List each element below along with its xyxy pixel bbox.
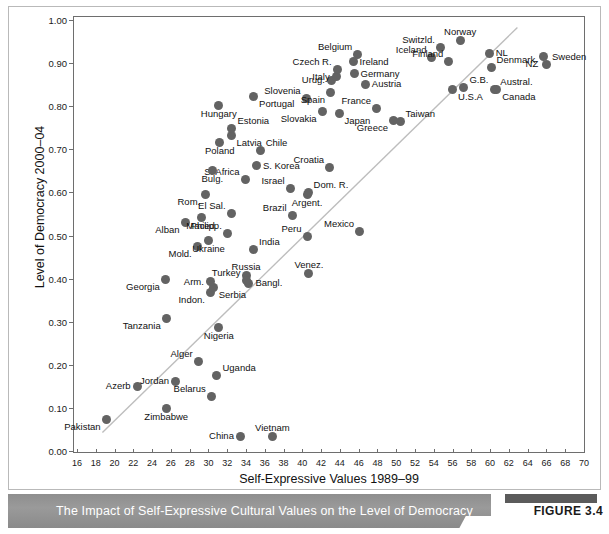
x-tick-mark — [471, 449, 472, 453]
x-tick-label: 70 — [579, 458, 589, 468]
x-tick-mark — [396, 449, 397, 453]
data-point-label: Bangl. — [255, 278, 282, 288]
data-point-label: Norway — [444, 28, 476, 38]
x-tick-label: 22 — [128, 458, 138, 468]
plot-area: PakistanAzerbZimbabweTanzaniaGeorgiaJord… — [73, 16, 585, 453]
x-tick-mark — [227, 449, 228, 453]
figure-number-label: FIGURE 3.4 — [491, 504, 603, 518]
x-tick-mark — [453, 449, 454, 453]
data-point[interactable] — [396, 117, 405, 126]
data-point-label: El Sal. — [198, 201, 225, 211]
data-point-label: Poland — [205, 146, 235, 156]
data-point[interactable] — [355, 227, 364, 236]
data-point[interactable] — [194, 357, 203, 366]
data-point-label: G.B. — [469, 76, 488, 86]
x-tick-label: 16 — [72, 458, 82, 468]
data-point-label: Slovakia — [281, 114, 317, 124]
data-point-label: Uganda — [222, 363, 255, 373]
data-point-label: Sweden — [552, 52, 586, 62]
data-point[interactable] — [303, 232, 312, 241]
data-point-label: NZ — [526, 59, 539, 69]
data-point[interactable] — [252, 161, 261, 170]
data-point[interactable] — [326, 88, 335, 97]
x-tick-mark — [565, 449, 566, 453]
data-point[interactable] — [448, 85, 457, 94]
data-point-label: Jordan — [140, 377, 169, 387]
x-tick-mark — [208, 449, 209, 453]
data-point[interactable] — [207, 392, 216, 401]
figure-container: PakistanAzerbZimbabweTanzaniaGeorgiaJord… — [0, 0, 609, 534]
data-point-label: Nigeria — [204, 331, 234, 341]
data-point[interactable] — [350, 69, 359, 78]
data-point-label: Turkey — [212, 268, 241, 278]
data-point[interactable] — [249, 245, 258, 254]
data-point[interactable] — [487, 63, 496, 72]
x-tick-mark — [190, 449, 191, 453]
data-point[interactable] — [236, 432, 245, 441]
data-point[interactable] — [102, 415, 111, 424]
data-point-label: Brazil — [263, 204, 287, 214]
data-point[interactable] — [286, 184, 295, 193]
x-tick-label: 46 — [354, 458, 364, 468]
data-point[interactable] — [227, 209, 236, 218]
data-point-label: Ireland — [360, 57, 389, 67]
data-point[interactable] — [492, 85, 501, 94]
x-tick-label: 68 — [560, 458, 570, 468]
x-tick-mark — [302, 449, 303, 453]
data-point-label: Austral. — [500, 77, 532, 87]
data-point-label: Canada — [502, 92, 535, 102]
data-point-label: Rom. — [177, 197, 200, 207]
x-tick-mark — [321, 449, 322, 453]
x-tick-label: 64 — [523, 458, 533, 468]
x-tick-label: 48 — [372, 458, 382, 468]
data-point[interactable] — [304, 269, 313, 278]
y-tick-label: 0.00 — [31, 446, 67, 457]
data-point[interactable] — [161, 275, 170, 284]
x-tick-label: 24 — [147, 458, 157, 468]
x-tick-mark — [584, 449, 585, 453]
data-point[interactable] — [456, 36, 465, 45]
x-tick-label: 52 — [410, 458, 420, 468]
data-point[interactable] — [542, 60, 551, 69]
y-tick-mark — [69, 322, 73, 323]
x-tick-mark — [377, 449, 378, 453]
y-tick-mark — [69, 149, 73, 150]
data-point-label: Azerb — [106, 382, 131, 392]
data-point-label: Georgia — [126, 282, 160, 292]
figure-caption: The Impact of Self-Expressive Cultural V… — [56, 494, 473, 528]
data-point[interactable] — [241, 175, 250, 184]
data-point[interactable] — [249, 92, 258, 101]
data-point[interactable] — [242, 276, 251, 285]
data-point[interactable] — [325, 163, 334, 172]
x-tick-label: 62 — [504, 458, 514, 468]
data-point[interactable] — [212, 371, 221, 380]
data-point[interactable] — [485, 49, 494, 58]
data-point-label: U.S.A — [458, 93, 483, 103]
data-point-label: Bulg. — [201, 175, 223, 185]
data-point[interactable] — [333, 65, 342, 74]
data-point[interactable] — [288, 211, 297, 220]
data-point[interactable] — [268, 432, 277, 441]
data-point[interactable] — [318, 107, 327, 116]
data-point-label: Slovenia — [264, 86, 300, 96]
data-point-label: Vietnam — [255, 423, 290, 433]
y-tick-mark — [69, 236, 73, 237]
data-point-label: Argent. — [292, 198, 323, 208]
data-point-label: Chile — [266, 138, 288, 148]
y-tick-mark — [69, 63, 73, 64]
x-tick-mark — [434, 449, 435, 453]
data-point[interactable] — [223, 229, 232, 238]
data-point[interactable] — [162, 314, 171, 323]
data-point[interactable] — [201, 190, 210, 199]
x-tick-label: 28 — [185, 458, 195, 468]
data-point[interactable] — [444, 57, 453, 66]
data-point-label: Zimbabwe — [144, 412, 188, 422]
x-tick-label: 60 — [485, 458, 495, 468]
y-tick-mark — [69, 192, 73, 193]
data-point[interactable] — [304, 188, 313, 197]
data-point[interactable] — [349, 57, 358, 66]
data-point[interactable] — [335, 109, 344, 118]
data-point-label: Alban — [155, 225, 179, 235]
data-point[interactable] — [372, 104, 381, 113]
data-point[interactable] — [361, 80, 370, 89]
